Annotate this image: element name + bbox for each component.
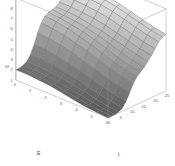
svg-text:15: 15 bbox=[142, 104, 147, 109]
z-axis-label: ω bbox=[5, 63, 9, 69]
svg-text:9: 9 bbox=[11, 0, 14, 1]
svg-text:4: 4 bbox=[75, 107, 78, 112]
svg-text:5: 5 bbox=[91, 114, 94, 119]
svg-text:3: 3 bbox=[60, 101, 63, 106]
svg-text:2: 2 bbox=[44, 95, 47, 100]
surface-mesh bbox=[16, 0, 166, 118]
y-axis-label: t bbox=[118, 151, 120, 157]
z-axis-ticks: 123456789 bbox=[11, 0, 14, 83]
svg-text:0: 0 bbox=[108, 120, 111, 125]
svg-text:20: 20 bbox=[153, 98, 158, 103]
svg-text:8: 8 bbox=[11, 6, 14, 11]
surface-chart: 123456789 0123456 0510152025 ω E t bbox=[0, 0, 175, 166]
svg-text:6: 6 bbox=[11, 26, 14, 31]
svg-text:4: 4 bbox=[11, 47, 14, 52]
svg-text:3: 3 bbox=[11, 57, 14, 62]
svg-text:7: 7 bbox=[11, 16, 14, 21]
svg-text:0: 0 bbox=[14, 82, 17, 87]
svg-text:5: 5 bbox=[11, 37, 14, 42]
svg-text:1: 1 bbox=[29, 88, 32, 93]
svg-text:5: 5 bbox=[119, 115, 122, 120]
svg-text:2: 2 bbox=[11, 67, 14, 72]
x-axis-label: E bbox=[37, 150, 41, 156]
svg-text:25: 25 bbox=[165, 93, 170, 98]
svg-text:10: 10 bbox=[130, 109, 135, 114]
